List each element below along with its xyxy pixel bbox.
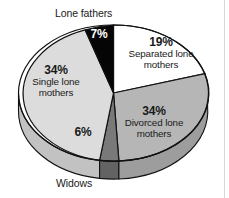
- slice-label-single-lone-mothers: 34% Single lone mothers: [16, 64, 96, 99]
- slice-side-widows: [100, 160, 119, 179]
- pie-chart: Lone fathers Widows 7% 6% 19% Separated …: [0, 0, 229, 198]
- slice-value-lone-fathers: 7%: [84, 28, 114, 41]
- right-edge-rule: [224, 0, 225, 198]
- slice-value-widows: 6%: [68, 126, 98, 139]
- slice-value-lone-fathers-text: 7%: [84, 28, 114, 41]
- slice-name-separated-line2: mothers: [120, 60, 202, 71]
- slice-value-single-lone-mothers: 34%: [16, 64, 96, 77]
- slice-label-divorced-lone-mothers: 34% Divorced lone mothers: [112, 105, 196, 140]
- slice-label-lone-fathers: Lone fathers: [55, 8, 112, 20]
- slice-value-widows-text: 6%: [68, 126, 98, 139]
- slice-value-separated-lone-mothers: 19%: [120, 36, 202, 49]
- slice-name-single-line2: mothers: [16, 88, 96, 99]
- slice-value-divorced-lone-mothers: 34%: [112, 105, 196, 118]
- slice-label-separated-lone-mothers: 19% Separated lone mothers: [120, 36, 202, 71]
- slice-name-divorced-line2: mothers: [112, 129, 196, 140]
- slice-label-widows: Widows: [56, 178, 92, 190]
